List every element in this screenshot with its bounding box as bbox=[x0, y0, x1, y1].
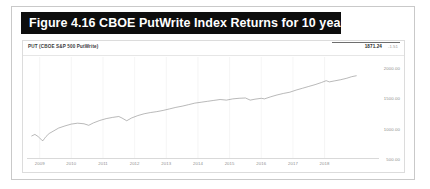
x-axis-tick-2012: 2012 bbox=[130, 161, 140, 166]
x-axis-line bbox=[27, 158, 379, 159]
x-axis-tick-2016: 2016 bbox=[256, 161, 266, 166]
chart-card: PUT (CBOE S&P 500 PutWrite) 1871.24 -1.5… bbox=[22, 40, 405, 173]
page-title: Figure 4.16 CBOE PutWrite Index Returns … bbox=[29, 16, 352, 30]
x-axis-tick-2011: 2011 bbox=[98, 161, 108, 166]
header-rule bbox=[332, 42, 400, 43]
y-axis: 2000.001500.001000.00500.00 bbox=[362, 57, 402, 169]
y-axis-tick-1500-00: 1500.00 bbox=[384, 96, 400, 101]
x-axis: 2009201020112012201320142015201620172018 bbox=[27, 158, 361, 170]
figure-frame: Figure 4.16 CBOE PutWrite Index Returns … bbox=[11, 6, 415, 180]
last-value-readout: 1871.24 bbox=[365, 44, 382, 49]
x-axis-tick-2009: 2009 bbox=[35, 161, 45, 166]
y-axis-tick-2000-00: 2000.00 bbox=[384, 66, 400, 71]
series-legend-label: PUT (CBOE S&P 500 PutWrite) bbox=[28, 44, 99, 49]
series-line-put bbox=[32, 76, 357, 141]
x-axis-tick-2014: 2014 bbox=[193, 161, 203, 166]
x-axis-tick-2018: 2018 bbox=[320, 161, 330, 166]
y-axis-tick-1000-00: 1000.00 bbox=[384, 127, 400, 132]
price-line-chart bbox=[27, 57, 361, 159]
x-axis-tick-2015: 2015 bbox=[225, 161, 235, 166]
change-readout: -1.51 bbox=[388, 44, 398, 49]
x-axis-tick-2010: 2010 bbox=[66, 161, 76, 166]
grid-lines bbox=[40, 57, 325, 159]
y-axis-tick-500-00: 500.00 bbox=[386, 157, 400, 162]
x-axis-tick-2013: 2013 bbox=[161, 161, 171, 166]
chart-header: PUT (CBOE S&P 500 PutWrite) 1871.24 -1.5… bbox=[23, 41, 404, 56]
plot-area bbox=[27, 57, 361, 159]
x-axis-tick-2017: 2017 bbox=[288, 161, 298, 166]
figure-caption-bar: Figure 4.16 CBOE PutWrite Index Returns … bbox=[21, 12, 341, 34]
